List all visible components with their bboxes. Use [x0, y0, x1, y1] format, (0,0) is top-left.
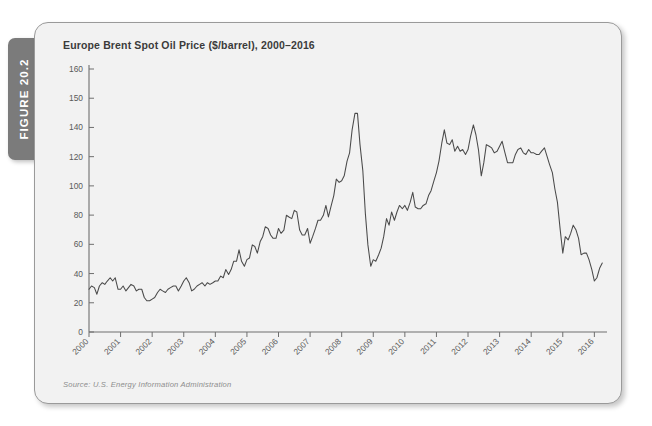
x-tick-label: 2013: [481, 336, 501, 356]
x-tick-label: 2000: [70, 336, 90, 356]
y-tick-label: 140: [69, 122, 83, 132]
source-note: Source: U.S. Energy Information Administ…: [63, 380, 231, 389]
y-tick-label: 60: [74, 239, 84, 249]
y-tick-label: 100: [69, 181, 83, 191]
y-tick-label: 160: [69, 64, 83, 74]
x-tick-label: 2007: [291, 336, 311, 356]
x-tick-label: 2016: [576, 336, 596, 356]
x-tick-label: 2008: [323, 336, 343, 356]
x-tick-label: 2006: [260, 336, 280, 356]
x-tick-label: 2015: [544, 336, 564, 356]
x-tick-label: 2012: [449, 336, 469, 356]
y-tick-label: 150: [69, 93, 83, 103]
x-tick-label: 2011: [418, 336, 438, 356]
x-tick-label: 2002: [133, 336, 153, 356]
x-tick-label: 2003: [165, 336, 185, 356]
x-tick-label: 2014: [512, 336, 532, 356]
y-tick-label: 40: [74, 269, 84, 279]
figure-panel: Europe Brent Spot Oil Price ($/barrel), …: [34, 22, 622, 404]
x-tick-label: 2010: [386, 336, 406, 356]
series-line: [89, 113, 602, 300]
x-tick-label: 2009: [354, 336, 374, 356]
x-tick-label: 2001: [102, 336, 122, 356]
y-tick-label: 0: [78, 327, 83, 337]
line-chart: 1601501401201008060402002000200120022003…: [35, 23, 623, 405]
y-tick-label: 20: [74, 298, 84, 308]
y-tick-label: 80: [74, 210, 84, 220]
x-tick-label: 2005: [228, 336, 248, 356]
page-bleed-text: [18, 2, 638, 16]
x-tick-label: 2004: [197, 336, 217, 356]
y-tick-label: 120: [69, 152, 83, 162]
